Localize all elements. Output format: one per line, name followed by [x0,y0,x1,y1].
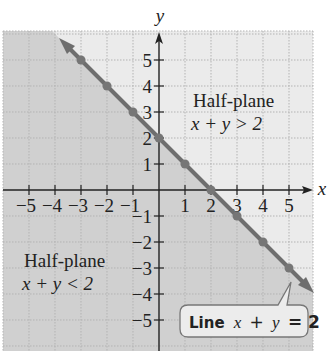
y-tick-label: 4 [143,76,153,97]
coordinate-plane-chart: −5−4−3−2−112345−5−4−3−2−112345 y x Half-… [0,0,334,352]
y-tick-label: 1 [143,154,153,175]
y-tick-label: −2 [132,232,152,253]
callout-x: x [233,313,242,332]
line-point [181,160,190,169]
svg-text:Line x + y: Line x + y = 2 [189,312,320,332]
callout-y: y [270,313,280,332]
x-tick-label: 5 [284,195,294,216]
x-tick-label: −4 [42,195,63,216]
line-point [77,56,86,65]
line-point [233,212,242,221]
x-tick-label: 4 [258,195,268,216]
y-axis-label: y [154,5,165,26]
y-tick-label: −5 [132,310,152,331]
x-tick-label: 2 [206,195,216,216]
half-plane-regions [3,31,313,351]
line-point [155,134,164,143]
line-point [207,186,216,195]
y-tick-label: −4 [132,284,153,305]
x-tick-label: −5 [16,195,36,216]
callout-word: Line [189,314,225,332]
y-tick-label: 5 [143,50,153,71]
y-tick-label: −3 [132,258,152,279]
line-point [103,82,112,91]
y-tick-label: 3 [143,102,153,123]
line-point [285,264,294,273]
x-tick-label: −3 [68,195,88,216]
y-tick-label: −1 [132,206,152,227]
line-point [259,238,268,247]
x-tick-label: −2 [94,195,114,216]
lower-region-inequality: x + y < 2 [21,273,94,294]
upper-region-inequality: x + y > 2 [190,113,263,134]
x-tick-label: 1 [180,195,190,216]
upper-region-title: Half-plane [193,90,274,111]
lower-region-title: Half-plane [24,250,105,271]
x-axis-label: x [317,178,327,199]
callout-rest: = 2 [288,312,320,332]
callout-plus: + [250,312,264,332]
line-point [129,108,138,117]
